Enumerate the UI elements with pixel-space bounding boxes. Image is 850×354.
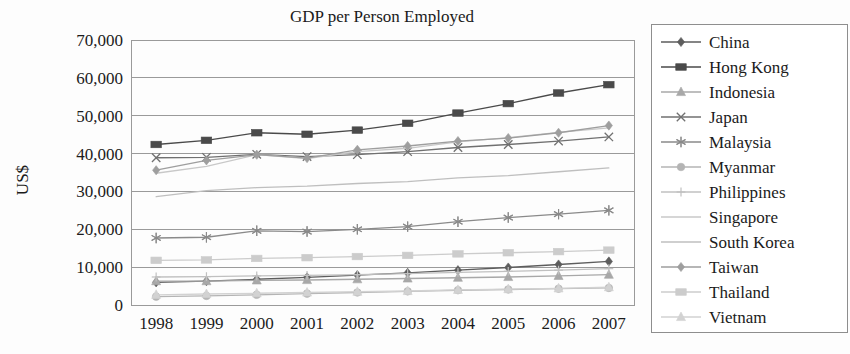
y-axis-title: US$: [13, 165, 32, 195]
data-point-marker: [202, 272, 211, 281]
data-point-marker: [604, 264, 613, 273]
data-point-marker: [303, 271, 312, 280]
data-point-marker: [151, 141, 162, 148]
x-tick-label: 2000: [240, 314, 274, 333]
y-tick-label: 10,000: [76, 258, 123, 277]
x-axis-tick-labels: 1998199920002001200220032004200520062007: [139, 314, 626, 333]
chart-svg: 010,00020,00030,00040,00050,00060,00070,…: [0, 0, 850, 354]
y-tick-label: 0: [115, 296, 124, 315]
legend-label: Thailand: [709, 283, 770, 302]
data-point-marker: [252, 255, 263, 262]
legend-marker-circle-icon: [677, 163, 685, 171]
y-tick-label: 50,000: [76, 107, 123, 126]
data-point-marker: [352, 253, 363, 260]
series-line: [156, 126, 609, 171]
series-indonesia: [152, 270, 614, 285]
data-point-marker: [453, 251, 464, 258]
data-point-marker: [302, 131, 313, 138]
chart-title: GDP per Person Employed: [290, 7, 474, 26]
x-tick-label: 1999: [189, 314, 223, 333]
data-point-marker: [503, 249, 514, 256]
legend-label: Malaysia: [709, 133, 772, 152]
x-tick-label: 2004: [441, 314, 476, 333]
y-tick-label: 60,000: [76, 69, 123, 88]
legend-label: South Korea: [709, 233, 795, 252]
data-point-marker: [402, 120, 413, 127]
y-tick-label: 40,000: [76, 145, 123, 164]
series-china: [153, 257, 613, 287]
data-point-marker: [352, 127, 363, 134]
data-point-marker: [403, 269, 412, 278]
y-axis-tick-labels: 010,00020,00030,00040,00050,00060,00070,…: [76, 31, 123, 315]
legend-marker-square-icon: [676, 64, 687, 71]
data-point-marker: [553, 248, 564, 255]
data-point-marker: [604, 81, 615, 88]
legend-label: Philippines: [709, 183, 786, 202]
series-line: [156, 85, 609, 145]
data-point-marker: [353, 270, 362, 279]
data-point-marker: [453, 110, 464, 117]
legend-label: Indonesia: [709, 83, 776, 102]
data-point-marker: [152, 273, 161, 282]
legend-marker-square-icon: [676, 289, 687, 296]
series-line: [156, 288, 609, 297]
legend-label: Japan: [709, 108, 748, 127]
data-point-marker: [201, 137, 212, 144]
x-tick-label: 2007: [592, 314, 627, 333]
legend-label: Singapore: [709, 208, 778, 227]
data-point-marker: [151, 257, 162, 264]
y-tick-label: 30,000: [76, 182, 123, 201]
data-point-marker: [402, 252, 413, 259]
series-line: [156, 210, 609, 238]
x-tick-label: 2005: [491, 314, 525, 333]
data-point-marker: [252, 129, 263, 136]
data-point-marker: [605, 121, 612, 130]
data-point-marker: [503, 100, 514, 107]
x-tick-label: 2003: [391, 314, 425, 333]
gdp-line-chart-figure: 010,00020,00030,00040,00050,00060,00070,…: [0, 0, 850, 354]
data-point-marker: [201, 257, 212, 264]
x-tick-label: 2002: [340, 314, 374, 333]
data-point-marker: [604, 247, 615, 254]
y-tick-label: 70,000: [76, 31, 123, 50]
data-point-marker: [555, 128, 562, 137]
x-tick-label: 2006: [542, 314, 576, 333]
data-point-marker: [302, 254, 313, 261]
series-line: [156, 287, 609, 295]
series-thailand: [151, 247, 614, 264]
legend-label: Hong Kong: [709, 58, 789, 77]
x-tick-label: 1998: [139, 314, 173, 333]
legend-label: China: [709, 33, 750, 52]
series-malaysia: [152, 205, 614, 243]
series-myanmar: [152, 284, 612, 300]
chart-page: 010,00020,00030,00040,00050,00060,00070,…: [0, 0, 850, 354]
legend-label: Taiwan: [709, 258, 759, 277]
series-taiwan: [153, 121, 613, 175]
series-south-korea: [156, 168, 609, 197]
series-line: [156, 168, 609, 197]
y-tick-label: 20,000: [76, 220, 123, 239]
data-point-marker: [553, 90, 564, 97]
legend-label: Myanmar: [709, 158, 775, 177]
series-hong-kong: [151, 81, 614, 147]
series-line: [156, 250, 609, 260]
x-tick-label: 2001: [290, 314, 324, 333]
legend-label: Vietnam: [709, 308, 767, 327]
